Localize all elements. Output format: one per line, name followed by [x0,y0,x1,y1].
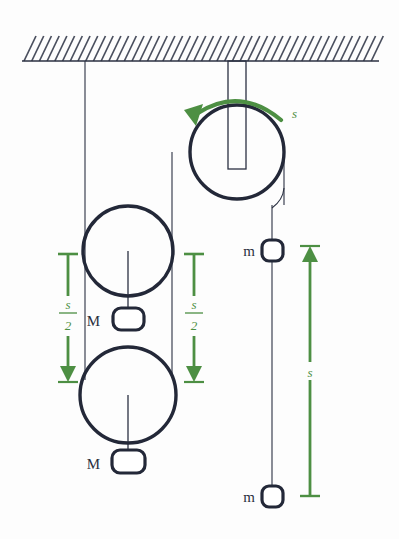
mass-m-lower-body [262,486,283,507]
middle-arrow-label-numerator: s [191,297,196,312]
mass-M-lower: M [87,450,145,473]
mass-M-upper-label: M [87,313,100,329]
fixed-pulley-hanger-bracket [228,61,246,169]
mass-M-upper-body [113,308,144,330]
mass-m-upper-label: m [243,243,255,259]
pulley-system-figure: s M M m m [0,0,399,539]
left-arrow-label-denominator: 2 [65,318,72,333]
middle-arrow-label-denominator: 2 [191,318,198,333]
arrow-middle-s-over-2: s 2 [184,254,204,382]
fixed-pulley-wheel [190,105,284,199]
mass-m-lower-label: m [243,489,255,505]
rope-group [85,61,284,496]
ceiling-hatch-lines [24,36,383,61]
left-arrowhead [60,366,76,382]
hatched-ceiling [22,36,383,61]
mass-m-upper-body [262,240,283,261]
rope-right-bend [272,188,284,208]
pulley-fixed-top [190,61,284,199]
left-arrow-label-numerator: s [65,297,70,312]
arrow-right-s: s [300,246,320,496]
mass-m-lower: m [243,486,283,507]
mass-M-upper: M [87,308,144,330]
mass-M-lower-label: M [87,456,100,472]
rotation-arrow-label: s [292,106,297,121]
arrow-left-s-over-2: s 2 [58,254,78,382]
mass-M-lower-body [112,450,145,473]
middle-arrowhead [186,366,202,382]
pulley-diagram: s M M m m [0,0,399,539]
right-arrow-label: s [307,365,312,380]
mass-m-upper: m [243,240,283,261]
